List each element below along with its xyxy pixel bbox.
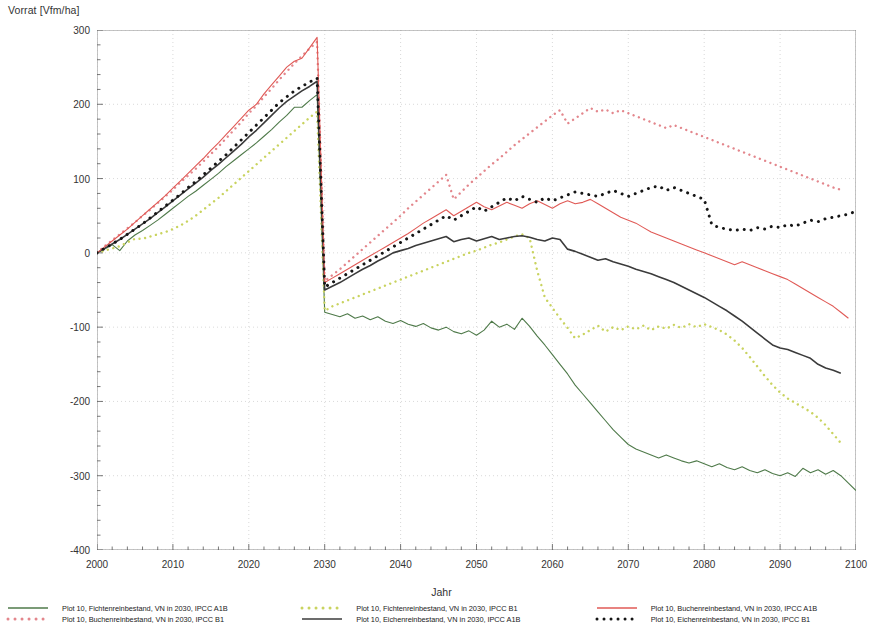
chart-svg	[97, 30, 856, 550]
x-tick-label: 2090	[769, 559, 791, 570]
legend-item[interactable]: Plot 10, Eichenreinbestand, VN in 2030, …	[294, 614, 588, 624]
x-tick-label: 2040	[389, 559, 411, 570]
legend-item[interactable]: Plot 10, Buchenreinbestand, VN in 2030, …	[0, 614, 294, 624]
x-tick-label: 2050	[465, 559, 487, 570]
legend-swatch-solid-icon	[6, 603, 50, 613]
y-axis-label: Vorrat [Vfm/ha]	[8, 4, 80, 16]
x-axis-label: Jahr	[0, 586, 883, 598]
series-line-2	[97, 112, 841, 443]
y-tick-label: -200	[70, 396, 90, 407]
x-tick-label: 2080	[693, 559, 715, 570]
y-tick-label: 300	[73, 25, 90, 36]
legend-swatch-dotted-icon	[6, 614, 50, 624]
legend-label: Plot 10, Eichenreinbestand, VN in 2030, …	[344, 615, 520, 624]
series-line-3	[97, 81, 841, 373]
legend-swatch-dotted-icon	[595, 614, 639, 624]
plot-area: 3002001000-100-200-300-40020002010202020…	[97, 30, 856, 550]
x-tick-label: 2020	[238, 559, 260, 570]
legend-label: Plot 10, Buchenreinbestand, VN in 2030, …	[50, 615, 224, 624]
legend-item[interactable]: Plot 10, Fichtenreinbestand, VN in 2030,…	[294, 603, 588, 613]
series-line-4	[97, 37, 848, 318]
y-tick-label: -300	[70, 470, 90, 481]
legend-swatch-solid-icon	[300, 614, 344, 624]
legend-label: Plot 10, Fichtenreinbestand, VN in 2030,…	[50, 604, 228, 613]
y-tick-label: -100	[70, 322, 90, 333]
legend-label: Plot 10, Fichtenreinbestand, VN in 2030,…	[344, 604, 517, 613]
legend-item[interactable]: Plot 10, Fichtenreinbestand, VN in 2030,…	[0, 603, 294, 613]
chart-page: Vorrat [Vfm/ha] 3002001000-100-200-300-4…	[0, 0, 883, 639]
y-tick-label: -400	[70, 545, 90, 556]
chart-legend: Plot 10, Fichtenreinbestand, VN in 2030,…	[0, 603, 883, 624]
x-tick-label: 2070	[617, 559, 639, 570]
y-tick-label: 200	[73, 99, 90, 110]
x-tick-label: 2030	[314, 559, 336, 570]
x-tick-label: 2060	[541, 559, 563, 570]
y-tick-label: 0	[84, 247, 90, 258]
y-tick-label: 100	[73, 173, 90, 184]
legend-label: Plot 10, Buchenreinbestand, VN in 2030, …	[639, 604, 817, 613]
legend-swatch-dotted-icon	[300, 603, 344, 613]
series-line-1	[97, 42, 841, 281]
legend-label: Plot 10, Eichenreinbestand, VN in 2030, …	[639, 615, 811, 624]
x-tick-label: 2100	[845, 559, 867, 570]
x-tick-label: 2010	[162, 559, 184, 570]
legend-item[interactable]: Plot 10, Buchenreinbestand, VN in 2030, …	[589, 603, 883, 613]
legend-item[interactable]: Plot 10, Eichenreinbestand, VN in 2030, …	[589, 614, 883, 624]
x-tick-label: 2000	[86, 559, 108, 570]
legend-swatch-solid-icon	[595, 603, 639, 613]
